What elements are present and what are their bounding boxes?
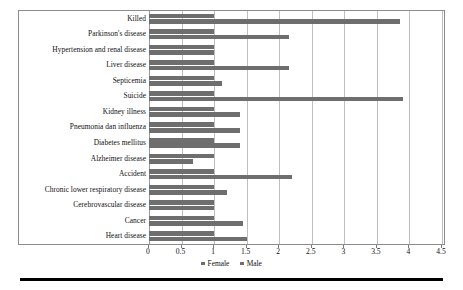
bar-group <box>19 27 444 43</box>
bottom-rule <box>20 278 443 281</box>
x-tick-label: 2.5 <box>306 248 316 256</box>
bar-group <box>19 135 444 151</box>
bar-group <box>19 73 444 89</box>
category-row: Parkinson's disease <box>19 27 444 43</box>
bar-group <box>19 228 444 244</box>
category-row: Alzheimer disease <box>19 151 444 167</box>
x-tick-label: 2 <box>276 248 280 256</box>
x-tick-label: 1.5 <box>241 248 251 256</box>
bar-female <box>149 76 214 81</box>
legend-label: Female <box>208 259 230 268</box>
bar-female <box>149 216 214 221</box>
bar-group <box>19 104 444 120</box>
bar-group <box>19 120 444 136</box>
category-row: Diabetes mellitus <box>19 135 444 151</box>
bar-group <box>19 182 444 198</box>
x-tick-label: 1 <box>211 248 215 256</box>
bar-group <box>19 58 444 74</box>
category-row: Cancer <box>19 213 444 229</box>
x-tick-label: 3.5 <box>371 248 381 256</box>
bar-female <box>149 138 214 143</box>
legend: FemaleMale <box>0 259 463 268</box>
category-row: Suicide <box>19 89 444 105</box>
bar-male <box>149 97 403 102</box>
bar-male <box>149 50 214 55</box>
bar-male <box>149 221 243 226</box>
bar-male <box>149 206 214 211</box>
bar-male <box>149 237 247 242</box>
bar-group <box>19 213 444 229</box>
bar-female <box>149 60 214 65</box>
category-row: Hypertension and renal disease <box>19 42 444 58</box>
x-tick-label: 0 <box>146 248 150 256</box>
x-tick-label: 4 <box>407 248 411 256</box>
bar-group <box>19 151 444 167</box>
x-tick-label: 4.5 <box>436 248 446 256</box>
category-row: Pneumonia dan influenza <box>19 120 444 136</box>
legend-swatch-icon <box>240 262 243 265</box>
category-row: Killed <box>19 11 444 27</box>
bar-group <box>19 89 444 105</box>
bar-male <box>149 190 227 195</box>
plot-area: KilledParkinson's diseaseHypertension an… <box>18 10 445 245</box>
bar-male <box>149 128 240 133</box>
bar-male <box>149 66 289 71</box>
bar-female <box>149 122 214 127</box>
category-row: Liver disease <box>19 58 444 74</box>
bar-male <box>149 112 240 117</box>
bar-group <box>19 11 444 27</box>
bar-male <box>149 175 292 180</box>
bar-female <box>149 185 214 190</box>
bar-rows: KilledParkinson's diseaseHypertension an… <box>19 11 444 244</box>
category-row: Heart disease <box>19 228 444 244</box>
legend-swatch-icon <box>201 262 204 265</box>
legend-label: Male <box>247 259 262 268</box>
category-row: Cerebrovascular disease <box>19 197 444 213</box>
category-row: Chronic lower respiratory disease <box>19 182 444 198</box>
category-row: Kidney illness <box>19 104 444 120</box>
legend-item[interactable]: Female <box>201 259 229 268</box>
category-row: Accident <box>19 166 444 182</box>
bar-female <box>149 107 214 112</box>
bar-female <box>149 200 214 205</box>
bar-male <box>149 35 289 40</box>
bar-female <box>149 29 214 34</box>
x-tick-label: 3 <box>341 248 345 256</box>
category-row: Septicemia <box>19 73 444 89</box>
bar-female <box>149 14 214 19</box>
bar-female <box>149 169 214 174</box>
legend-item[interactable]: Male <box>240 259 262 268</box>
bar-group <box>19 166 444 182</box>
figure: KilledParkinson's diseaseHypertension an… <box>0 0 463 290</box>
x-tick-label: 0.5 <box>176 248 186 256</box>
bar-male <box>149 143 240 148</box>
bar-female <box>149 45 214 50</box>
bar-male <box>149 81 222 86</box>
bar-female <box>149 91 214 96</box>
bar-female <box>149 154 214 159</box>
bar-group <box>19 42 444 58</box>
bar-group <box>19 197 444 213</box>
bar-male <box>149 19 400 24</box>
bar-male <box>149 159 193 164</box>
bar-female <box>149 231 214 236</box>
